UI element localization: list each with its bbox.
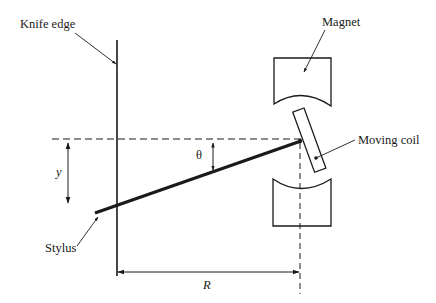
magnet-label: Magnet	[322, 15, 361, 29]
top-magnet	[274, 58, 331, 106]
theta-label: θ	[196, 148, 202, 162]
stylus-label: Stylus	[45, 241, 76, 255]
knife-edge-label: Knife edge	[20, 17, 76, 31]
magnet-leader-arrow	[304, 30, 325, 72]
diagram-canvas: Knife edge y Stylus θ Magnet Moving coil…	[0, 0, 436, 303]
moving-coil-label: Moving coil	[358, 133, 420, 147]
moving-coil-leader-dot	[314, 156, 318, 160]
r-label: R	[202, 278, 211, 292]
bottom-magnet	[273, 179, 331, 226]
moving-coil	[293, 108, 326, 172]
moving-coil-leader	[316, 140, 355, 158]
pivot-point	[298, 139, 302, 143]
knife-edge-leader-arrow	[75, 33, 116, 64]
y-label: y	[54, 165, 62, 179]
stylus-leader-arrow	[77, 217, 98, 246]
